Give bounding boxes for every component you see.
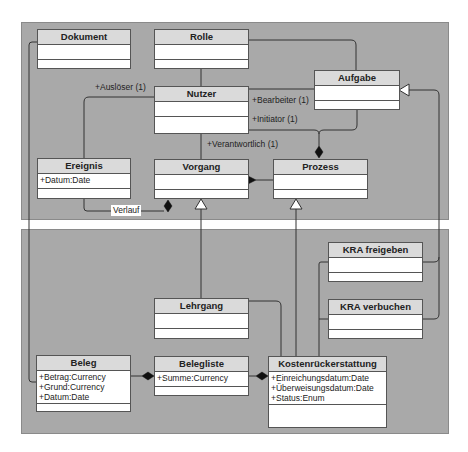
attributes-compartment — [274, 175, 367, 190]
label-bearbeiter: +Bearbeiter (1) — [252, 95, 309, 105]
attributes-compartment: +Datum:Date — [38, 174, 130, 189]
attribute: +Überweisungsdatum:Date — [271, 383, 384, 393]
class-belegliste[interactable]: Belegliste +Summe:Currency — [154, 356, 249, 396]
class-vorgang[interactable]: Vorgang — [154, 159, 249, 199]
class-name: Aufgabe — [315, 71, 399, 86]
attributes-compartment — [155, 45, 248, 60]
attributes-compartment — [155, 314, 248, 329]
label-ausloeser: +Auslöser (1) — [95, 82, 146, 92]
attribute: +Datum:Date — [39, 392, 128, 402]
attributes-compartment — [315, 86, 399, 101]
attributes-compartment: +Betrag:Currency +Grund:Currency +Datum:… — [37, 371, 130, 404]
class-name: Dokument — [38, 30, 130, 45]
attributes-compartment — [329, 258, 422, 273]
class-name: Belegliste — [155, 357, 248, 372]
class-aufgabe[interactable]: Aufgabe — [314, 70, 400, 110]
class-dokument[interactable]: Dokument — [37, 29, 131, 69]
attribute: +Grund:Currency — [39, 382, 128, 392]
class-name: Kostenrückerstattung — [269, 357, 386, 372]
class-kra-verbuchen[interactable]: KRA verbuchen — [328, 299, 423, 339]
class-name: KRA verbuchen — [329, 300, 422, 315]
label-initiator: +Initiator (1) — [252, 114, 298, 124]
class-name: Rolle — [155, 30, 248, 45]
class-name: Prozess — [274, 160, 367, 175]
attributes-compartment: +Summe:Currency — [155, 372, 248, 387]
class-prozess[interactable]: Prozess — [273, 159, 368, 199]
class-rolle[interactable]: Rolle — [154, 29, 249, 69]
attributes-compartment — [38, 45, 130, 60]
attributes-compartment — [329, 315, 422, 330]
label-verlauf: Verlauf — [111, 205, 141, 216]
class-name: Vorgang — [155, 160, 248, 175]
class-name: Nutzer — [155, 87, 248, 102]
class-name: Beleg — [37, 356, 130, 371]
attribute: +Einreichungsdatum:Date — [271, 373, 384, 383]
class-nutzer[interactable]: Nutzer — [154, 86, 249, 134]
attribute: +Summe:Currency — [157, 373, 246, 383]
class-beleg[interactable]: Beleg +Betrag:Currency +Grund:Currency +… — [36, 355, 131, 412]
class-ereignis[interactable]: Ereignis +Datum:Date — [37, 158, 131, 199]
attribute: +Datum:Date — [40, 175, 128, 185]
attributes-compartment — [155, 175, 248, 190]
class-name: Lehrgang — [155, 299, 248, 314]
class-lehrgang[interactable]: Lehrgang — [154, 298, 249, 339]
class-kra-freigeben[interactable]: KRA freigeben — [328, 242, 423, 282]
attributes-compartment — [155, 102, 248, 117]
attributes-compartment: +Einreichungsdatum:Date +Überweisungsdat… — [269, 372, 386, 405]
label-verantwortlich: +Verantwortlich (1) — [207, 139, 278, 149]
attribute: +Betrag:Currency — [39, 372, 128, 382]
class-kostenrueckerstattung[interactable]: Kostenrückerstattung +Einreichungsdatum:… — [268, 356, 387, 428]
attribute: +Status:Enum — [271, 393, 384, 403]
class-name: Ereignis — [38, 159, 130, 174]
class-name: KRA freigeben — [329, 243, 422, 258]
